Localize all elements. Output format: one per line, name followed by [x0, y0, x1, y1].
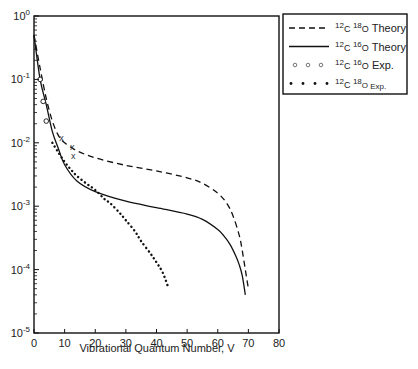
annotation-x-mark: x — [59, 133, 64, 143]
annotation-x-mark: x — [71, 151, 76, 161]
legend-swatch — [290, 82, 293, 85]
chart: xxx 01020304050607080 10010-110-210-310-… — [0, 0, 418, 369]
x-tick-label: 10 — [59, 337, 71, 349]
data-point — [41, 99, 46, 104]
plot-area: xxx — [34, 16, 279, 333]
series-line — [52, 143, 168, 289]
y-tick-label: 10-3 — [11, 198, 31, 212]
legend-swatch — [314, 82, 317, 85]
y-axis: 10010-110-210-310-410-5 — [11, 8, 39, 339]
y-tick-label: 10-1 — [11, 71, 31, 85]
series-line — [34, 35, 248, 289]
series-12c-18o-theory — [34, 35, 248, 289]
y-tick-label: 10-5 — [11, 325, 31, 339]
legend-swatch — [302, 82, 305, 85]
data-point — [44, 119, 49, 124]
series-12c-16o-exp- — [38, 77, 49, 123]
legend-swatch — [326, 82, 329, 85]
y-tick-label: 10-2 — [11, 135, 31, 149]
x-tick-label: 70 — [242, 337, 254, 349]
legend: 12C 18O Theory12C 16O Theory12C 16O Exp.… — [283, 14, 407, 94]
legend-swatch — [319, 63, 323, 67]
x-tick-label: 80 — [273, 337, 285, 349]
y-tick-label: 10-4 — [11, 262, 31, 276]
y-tick-label: 100 — [13, 8, 30, 22]
x-tick-label: 0 — [31, 337, 37, 349]
legend-swatch — [306, 63, 310, 67]
series-12c-18o-exp- — [52, 143, 168, 289]
legend-swatch — [293, 63, 297, 67]
x-axis-title: Vibrational Quantum Number, V — [79, 342, 235, 354]
